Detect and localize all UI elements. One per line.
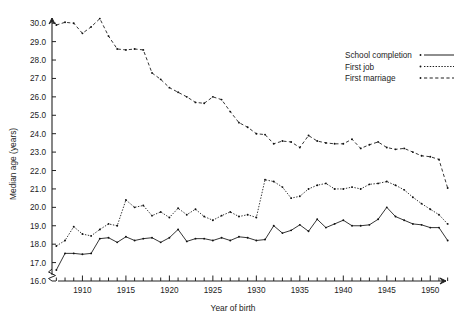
- y-tick-label: 29.0: [30, 38, 46, 47]
- data-point: [447, 240, 449, 242]
- data-point: [403, 219, 405, 221]
- data-point: [351, 138, 353, 140]
- data-point: [177, 207, 179, 209]
- x-tick-label: 1925: [204, 286, 223, 295]
- x-tick-label: 1945: [378, 286, 397, 295]
- data-point: [281, 232, 283, 234]
- data-point: [212, 219, 214, 221]
- x-tick-label: 1935: [291, 286, 310, 295]
- data-point: [360, 188, 362, 190]
- data-point: [429, 208, 431, 210]
- data-point: [64, 252, 66, 254]
- series-line: [56, 180, 447, 246]
- data-point: [90, 252, 92, 254]
- data-point: [247, 214, 249, 216]
- x-tick-label: 1950: [421, 286, 440, 295]
- data-point: [368, 224, 370, 226]
- data-point: [142, 49, 144, 51]
- data-point: [151, 237, 153, 239]
- y-tick-label: 17.0: [30, 259, 46, 268]
- data-point: [377, 182, 379, 184]
- data-point: [351, 186, 353, 188]
- data-point: [151, 215, 153, 217]
- data-point: [90, 235, 92, 237]
- x-tick-label: 1915: [117, 286, 136, 295]
- x-tick-label: 1920: [160, 286, 179, 295]
- data-point: [438, 214, 440, 216]
- data-point: [73, 226, 75, 228]
- data-point: [221, 99, 223, 101]
- data-point: [247, 237, 249, 239]
- data-point: [438, 159, 440, 161]
- data-point: [386, 147, 388, 149]
- y-tick-label: 30.0: [30, 19, 46, 28]
- data-point: [134, 240, 136, 242]
- data-point: [186, 96, 188, 98]
- y-tick-label: 23.0: [30, 148, 46, 157]
- data-point: [116, 48, 118, 50]
- y-axis-tick-labels: 16.017.018.019.020.021.022.023.024.025.0…: [30, 19, 46, 286]
- data-point: [168, 217, 170, 219]
- y-axis-title: Median age (years): [8, 128, 18, 200]
- data-point: [247, 126, 249, 128]
- series-line: [56, 207, 447, 270]
- data-point: [125, 199, 127, 201]
- data-point: [81, 32, 83, 34]
- data-point: [264, 134, 266, 136]
- data-point: [160, 78, 162, 80]
- data-point: [290, 141, 292, 143]
- data-point: [308, 230, 310, 232]
- series-school-completion: [55, 206, 448, 271]
- data-point: [308, 135, 310, 137]
- y-tick-label: 19.0: [30, 222, 46, 231]
- x-tick-label: 1940: [334, 286, 353, 295]
- data-point: [168, 87, 170, 89]
- data-point: [412, 223, 414, 225]
- data-point: [203, 216, 205, 218]
- line-chart-canvas: 16.017.018.019.020.021.022.023.024.025.0…: [0, 0, 465, 322]
- data-point: [368, 144, 370, 146]
- data-point: [299, 224, 301, 226]
- data-point: [116, 241, 118, 243]
- data-point: [125, 236, 127, 238]
- data-point: [421, 224, 423, 226]
- data-point: [108, 237, 110, 239]
- series-line: [56, 19, 447, 188]
- x-axis-tick-labels: 191019151920192519301935194019451950: [73, 286, 439, 295]
- data-point: [334, 223, 336, 225]
- data-point: [195, 101, 197, 103]
- data-point: [429, 227, 431, 229]
- data-point: [229, 211, 231, 213]
- data-point: [255, 240, 257, 242]
- data-point: [81, 253, 83, 255]
- data-point: [221, 237, 223, 239]
- y-tick-label: 21.0: [30, 185, 46, 194]
- data-point: [316, 184, 318, 186]
- data-point: [229, 111, 231, 113]
- y-tick-label: 28.0: [30, 56, 46, 65]
- data-point: [386, 181, 388, 183]
- data-point: [99, 228, 101, 230]
- legend-label: School completion: [345, 51, 412, 60]
- data-point: [299, 147, 301, 149]
- data-point: [325, 182, 327, 184]
- data-point: [64, 21, 66, 23]
- data-point: [395, 184, 397, 186]
- data-point: [316, 140, 318, 142]
- data-point: [421, 203, 423, 205]
- data-point: [186, 214, 188, 216]
- data-point: [342, 219, 344, 221]
- data-point: [221, 215, 223, 217]
- data-point: [360, 225, 362, 227]
- data-point: [186, 240, 188, 242]
- data-point: [160, 211, 162, 213]
- x-tick-label: 1930: [247, 286, 266, 295]
- data-point: [273, 225, 275, 227]
- x-tick-label: 1910: [73, 286, 92, 295]
- y-tick-label: 22.0: [30, 167, 46, 176]
- data-point: [334, 188, 336, 190]
- data-point: [99, 18, 101, 20]
- data-point: [281, 186, 283, 188]
- data-point: [73, 252, 75, 254]
- x-axis-title: Year of birth: [211, 303, 256, 313]
